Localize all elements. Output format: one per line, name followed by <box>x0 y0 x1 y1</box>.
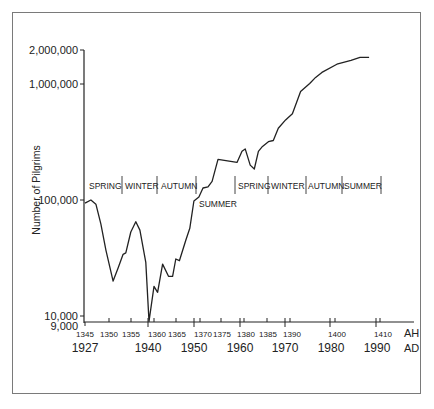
ah-label: 1400 <box>328 330 346 339</box>
ad-label: 1960 <box>227 341 254 355</box>
ah-label: 1385 <box>259 330 277 339</box>
ah-label: 1380 <box>237 330 255 339</box>
ah-label: 1350 <box>100 330 118 339</box>
y-label-9000: 9,000 <box>50 320 78 332</box>
ah-label: 1360 <box>148 330 166 339</box>
x-tick-labels-ah: 1345 1350 1355 1360 1365 1370 1375 1380 … <box>76 327 419 339</box>
ah-unit-label: AH <box>404 327 419 339</box>
ah-label: 1375 <box>213 330 231 339</box>
ah-label: 1365 <box>168 330 186 339</box>
ad-label: 1980 <box>318 341 345 355</box>
y-label-100000: 100,000 <box>38 194 78 206</box>
ad-label: 1950 <box>181 341 208 355</box>
season-summer: SUMMER <box>344 181 382 191</box>
season-autumn: AUTUMN <box>161 181 197 191</box>
season-spring: SPRING <box>89 181 122 191</box>
season-winter: WINTER <box>271 181 305 191</box>
ah-label: 1345 <box>76 330 94 339</box>
ad-unit-label: AD <box>404 342 419 354</box>
ad-label: 1927 <box>72 341 99 355</box>
ad-label: 1940 <box>135 341 162 355</box>
ad-label: 1990 <box>364 341 391 355</box>
season-winter: WINTER <box>125 181 159 191</box>
y-axis-title: Number of Pilgrims <box>30 145 42 234</box>
ah-label: 1390 <box>283 330 301 339</box>
ah-label: 1355 <box>122 330 140 339</box>
season-spring: SPRING <box>238 181 271 191</box>
pilgrims-chart: 2,000,000 1,000,000 100,000 10,000 9,000… <box>0 0 434 409</box>
season-summer: SUMMER <box>199 199 237 209</box>
season-autumn: AUTUMN <box>308 181 344 191</box>
season-annotations: SPRING WINTER AUTUMN SUMMER SPRING WINTE… <box>89 176 382 209</box>
x-tick-labels-ad: 1927 1940 1950 1960 1970 1980 1990 AD <box>72 341 420 355</box>
ad-label: 1970 <box>272 341 299 355</box>
ah-label: 1410 <box>374 330 392 339</box>
y-label-2000000: 2,000,000 <box>29 44 78 56</box>
ah-label: 1370 <box>194 330 212 339</box>
y-label-1000000: 1,000,000 <box>29 78 78 90</box>
